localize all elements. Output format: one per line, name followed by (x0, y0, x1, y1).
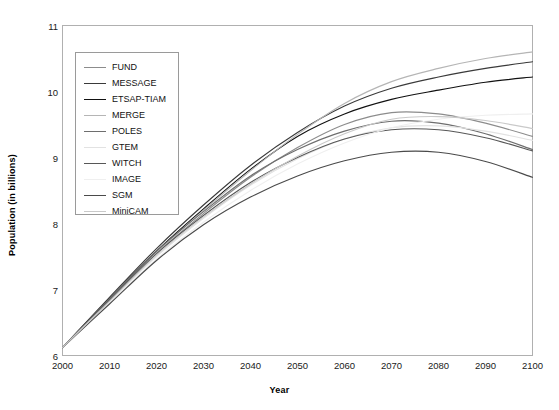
legend-item-label: MESSAGE (112, 79, 157, 88)
legend-item: ETSAP-TIAM (76, 91, 178, 107)
legend-item-label: FUND (112, 63, 137, 72)
legend-item: GTEM (76, 139, 178, 155)
legend-item: MiniCAM (76, 203, 178, 219)
legend-item-label: ETSAP-TIAM (112, 95, 166, 104)
legend-swatch-icon (84, 163, 106, 164)
legend-item-label: GTEM (112, 143, 138, 152)
y-axis-title-text: Population (in billions) (7, 154, 17, 256)
x-tick-label: 2080 (428, 360, 449, 371)
x-tick-label: 2050 (287, 360, 308, 371)
legend-item-label: MERGE (112, 111, 145, 120)
legend-item: WITCH (76, 155, 178, 171)
legend-swatch-icon (84, 179, 106, 180)
y-tick-label: 9 (24, 152, 58, 163)
y-tick-label: 10 (24, 86, 58, 97)
legend-item-label: SGM (112, 191, 133, 200)
legend-swatch-icon (84, 211, 106, 212)
legend-item: IMAGE (76, 171, 178, 187)
legend-swatch-icon (84, 83, 106, 84)
x-tick-label: 2010 (99, 360, 120, 371)
legend-item-label: POLES (112, 127, 142, 136)
legend-item: FUND (76, 59, 178, 75)
legend-swatch-icon (84, 195, 106, 196)
x-axis-title: Year (0, 379, 559, 397)
legend-item-label: IMAGE (112, 175, 141, 184)
y-axis-ticks: 67891011 (20, 0, 58, 410)
legend-swatch-icon (84, 115, 106, 116)
legend-item-label: WITCH (112, 159, 142, 168)
y-tick-label: 8 (24, 218, 58, 229)
legend-item: MESSAGE (76, 75, 178, 91)
legend: FUNDMESSAGEETSAP-TIAMMERGEPOLESGTEMWITCH… (75, 52, 179, 215)
legend-swatch-icon (84, 67, 106, 68)
x-tick-label: 2020 (146, 360, 167, 371)
y-tick-label: 7 (24, 284, 58, 295)
legend-swatch-icon (84, 131, 106, 132)
population-projection-chart: Population (in billions) 67891011 200020… (0, 0, 559, 410)
legend-item: POLES (76, 123, 178, 139)
x-tick-label: 2000 (52, 360, 73, 371)
x-tick-label: 2070 (381, 360, 402, 371)
x-tick-label: 2100 (522, 360, 543, 371)
x-axis-title-text: Year (270, 385, 290, 395)
legend-item: MERGE (76, 107, 178, 123)
legend-swatch-icon (84, 99, 106, 100)
x-tick-label: 2030 (193, 360, 214, 371)
legend-item: SGM (76, 187, 178, 203)
legend-swatch-icon (84, 147, 106, 148)
y-axis-title: Population (in billions) (2, 0, 22, 410)
x-tick-label: 2090 (475, 360, 496, 371)
x-tick-label: 2040 (240, 360, 261, 371)
y-tick-label: 11 (24, 20, 58, 31)
legend-item-label: MiniCAM (112, 207, 149, 216)
x-tick-label: 2060 (334, 360, 355, 371)
